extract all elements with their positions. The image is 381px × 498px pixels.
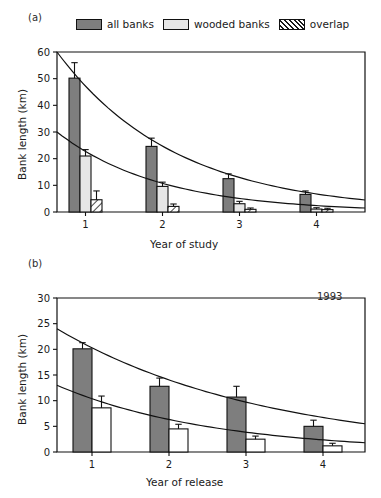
svg-text:50: 50 [37, 73, 50, 84]
panel-a-plot: 01020304050601234 [0, 0, 381, 498]
svg-text:20: 20 [37, 153, 50, 164]
svg-text:4: 4 [313, 219, 319, 230]
svg-text:30: 30 [37, 127, 50, 138]
svg-text:60: 60 [37, 47, 50, 58]
svg-text:10: 10 [37, 180, 50, 191]
svg-text:1: 1 [82, 219, 88, 230]
svg-text:0: 0 [44, 207, 50, 218]
svg-text:40: 40 [37, 100, 50, 111]
svg-text:3: 3 [236, 219, 242, 230]
svg-text:2: 2 [159, 219, 165, 230]
